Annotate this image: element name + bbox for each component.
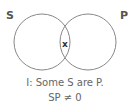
circle-p bbox=[60, 14, 116, 70]
set-label-p: P bbox=[120, 10, 128, 21]
intersection-mark: x bbox=[62, 40, 68, 49]
venn-diagram: S P x I: Some S are P. SP ≠ 0 bbox=[0, 0, 130, 112]
proposition-caption: I: Some S are P. bbox=[0, 78, 130, 88]
formula-caption: SP ≠ 0 bbox=[0, 93, 130, 103]
set-label-s: S bbox=[6, 10, 14, 21]
